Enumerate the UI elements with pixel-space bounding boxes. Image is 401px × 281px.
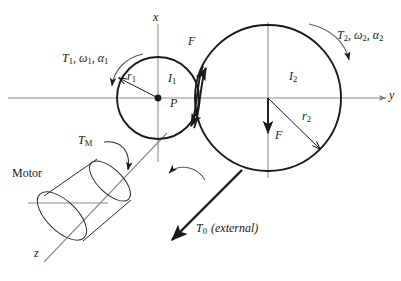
z-axis-label: z xyxy=(34,247,39,259)
motor-near-end-ellipse xyxy=(29,184,94,249)
gear2-inertia-label: I2 xyxy=(289,70,297,84)
gear-train-diagram: x y z T1, ω1, α1 T2, ω2, α2 I1 r1 P I2 r… xyxy=(0,0,401,281)
motor-torque-label: TM xyxy=(78,134,92,148)
y-axis-label: y xyxy=(389,89,394,101)
motor-body-edge-bottom xyxy=(83,200,131,241)
external-torque-subscript: 0 xyxy=(203,226,207,236)
external-torque-symbol: T xyxy=(196,221,203,235)
gear2-radius-label: r2 xyxy=(302,110,311,124)
gear1-radius-label: r1 xyxy=(127,70,136,84)
motor-torque-symbol: T xyxy=(78,133,85,147)
external-torque-note: (external) xyxy=(211,221,258,235)
motor-torque-subscript: M xyxy=(85,138,93,148)
motor-body-edge-top xyxy=(44,159,97,196)
motor-label: Motor xyxy=(12,167,42,179)
gear2-drive-label: T2, ω2, α2 xyxy=(337,29,383,43)
gear1-radius-arrow xyxy=(119,78,158,98)
gear1-inertia-subscript: 1 xyxy=(172,76,176,86)
gear2-radius-subscript: 2 xyxy=(307,114,311,124)
gear1-inertia-label: I1 xyxy=(168,72,176,86)
external-torque-label: T0(external) xyxy=(196,222,258,236)
motor-cylinder xyxy=(29,154,137,248)
gear1-radius-subscript: 1 xyxy=(132,74,136,84)
gear1-center-point-label: P xyxy=(170,97,177,109)
gear2-torque-symbol: T xyxy=(337,28,344,42)
contact-force-lower-label: F xyxy=(275,129,282,141)
x-axis-label: x xyxy=(153,11,158,23)
gear1-torque-symbol: T xyxy=(62,51,69,65)
gear1-alpha-subscript: 1 xyxy=(104,56,108,66)
contact-force-upper-label: F xyxy=(188,35,195,47)
gear2-alpha-subscript: 2 xyxy=(379,33,383,43)
gear2-inertia-subscript: 2 xyxy=(293,74,297,84)
external-torque-arc xyxy=(169,167,205,180)
gear1-drive-label: T1, ω1, α1 xyxy=(62,52,108,66)
motor-torque-arc xyxy=(104,142,129,170)
